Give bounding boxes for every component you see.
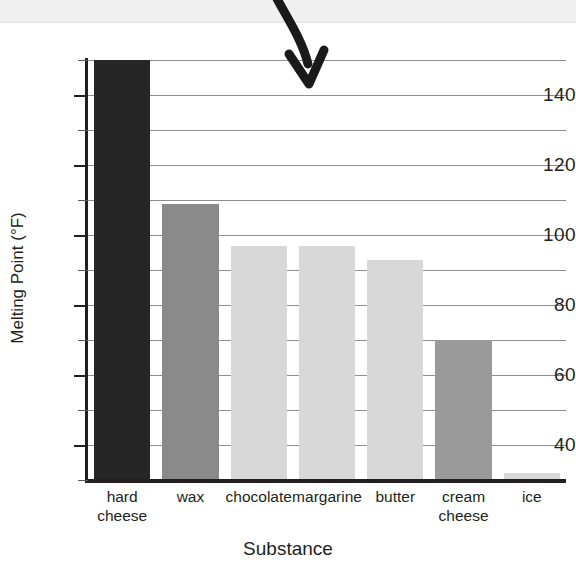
x-axis-title: Substance xyxy=(0,538,576,560)
x-axis-line xyxy=(85,479,566,483)
y-tick-label: 60 xyxy=(508,364,576,386)
bar-chocolate xyxy=(231,246,287,481)
x-label-line: ice xyxy=(492,487,572,506)
bar-cream-cheese xyxy=(435,340,491,480)
y-axis-title: Melting Point (°F) xyxy=(8,178,28,378)
gridline xyxy=(88,95,566,96)
gridline xyxy=(88,165,566,166)
y-tick-minor xyxy=(78,270,88,271)
y-tick-label: 80 xyxy=(508,294,576,316)
y-tick-label: 100 xyxy=(508,224,576,246)
bar-hard-cheese xyxy=(94,60,150,480)
y-tick-major xyxy=(74,95,88,97)
x-label-line: cheese xyxy=(423,506,503,525)
bar-wax xyxy=(162,204,218,481)
y-tick-label: 40 xyxy=(508,434,576,456)
y-tick-minor xyxy=(78,480,88,481)
gridline xyxy=(88,60,566,61)
y-tick-label: 140 xyxy=(508,84,576,106)
gridline xyxy=(88,130,566,131)
y-tick-major xyxy=(74,235,88,237)
y-tick-minor xyxy=(78,410,88,411)
bar-butter xyxy=(367,260,423,481)
gridline xyxy=(88,200,566,201)
y-tick-major xyxy=(74,445,88,447)
x-label-line: cheese xyxy=(82,506,162,525)
y-tick-minor xyxy=(78,340,88,341)
bar-margarine xyxy=(299,246,355,481)
y-tick-major xyxy=(74,375,88,377)
y-tick-major xyxy=(74,165,88,167)
bar-chart: 406080100120140 hardcheesewaxchocolatema… xyxy=(0,0,576,565)
x-label-ice: ice xyxy=(492,487,572,506)
plot-area xyxy=(88,60,566,480)
y-tick-major xyxy=(74,305,88,307)
gridline xyxy=(88,235,566,236)
y-tick-minor xyxy=(78,60,88,61)
y-tick-minor xyxy=(78,200,88,201)
y-tick-minor xyxy=(78,130,88,131)
y-tick-label: 120 xyxy=(508,154,576,176)
